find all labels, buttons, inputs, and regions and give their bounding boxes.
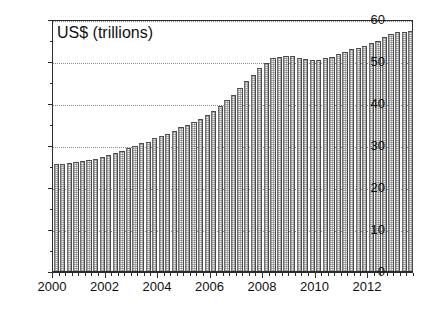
bar — [251, 75, 256, 271]
x-tick — [301, 273, 302, 276]
x-tick — [229, 273, 230, 276]
bar — [93, 159, 98, 271]
bar — [303, 59, 308, 271]
x-tick — [85, 273, 86, 276]
bar — [290, 56, 295, 271]
bar — [159, 136, 164, 271]
x-tick — [150, 273, 151, 276]
y-tick — [50, 41, 53, 42]
x-tick — [406, 273, 407, 276]
bar — [323, 58, 328, 271]
bar — [126, 148, 131, 271]
chart-screenshot: US$ (trillions) 0102030405060 2000200220… — [0, 0, 441, 314]
x-tick — [387, 273, 388, 276]
y-axis — [52, 20, 53, 272]
x-axis-tick-label: 2008 — [240, 280, 284, 294]
y-axis-tick-label: 10 — [359, 223, 385, 236]
y-tick — [48, 20, 53, 21]
x-tick — [341, 273, 342, 276]
bar — [152, 138, 157, 271]
x-axis-tick-label: 2012 — [345, 280, 389, 294]
bar — [54, 164, 59, 271]
bar — [67, 163, 72, 271]
bar — [165, 134, 170, 271]
bar — [218, 106, 223, 271]
bar — [310, 60, 315, 271]
y-axis-tick-label: 50 — [359, 55, 385, 68]
bar — [283, 56, 288, 271]
x-tick — [360, 273, 361, 276]
y-axis-tick-label: 60 — [359, 13, 385, 26]
x-tick — [242, 273, 243, 276]
bar — [139, 143, 144, 271]
bar — [73, 162, 78, 271]
x-tick — [249, 273, 250, 276]
y-tick — [50, 209, 53, 210]
x-tick — [216, 273, 217, 276]
y-axis-tick-label: 40 — [359, 97, 385, 110]
x-tick — [131, 273, 132, 276]
x-tick — [111, 273, 112, 276]
y-axis-tick-label: 20 — [359, 181, 385, 194]
bar — [231, 95, 236, 271]
x-tick — [72, 273, 73, 276]
bar — [237, 88, 242, 271]
x-tick — [354, 273, 355, 276]
y-tick — [48, 104, 53, 105]
x-tick — [236, 273, 237, 276]
y-tick — [48, 62, 53, 63]
x-tick — [137, 273, 138, 276]
y-tick — [48, 230, 53, 231]
bar — [264, 63, 269, 271]
bar — [224, 100, 229, 271]
x-tick — [334, 273, 335, 276]
x-tick — [177, 273, 178, 276]
x-tick — [196, 273, 197, 276]
x-tick — [183, 273, 184, 276]
x-tick — [118, 273, 119, 276]
y-tick — [50, 83, 53, 84]
x-tick — [157, 273, 158, 278]
bar — [388, 34, 393, 271]
bar — [329, 57, 334, 271]
x-tick — [170, 273, 171, 276]
x-tick — [210, 273, 211, 278]
bar — [211, 111, 216, 271]
bar — [113, 153, 118, 271]
bar — [395, 32, 400, 271]
bar — [185, 125, 190, 271]
x-tick — [374, 273, 375, 276]
bar — [402, 32, 407, 271]
y-tick — [50, 167, 53, 168]
x-tick — [124, 273, 125, 276]
bar — [336, 54, 341, 271]
bar — [316, 60, 321, 271]
bar — [349, 49, 354, 271]
x-tick — [282, 273, 283, 276]
x-tick — [59, 273, 60, 276]
x-tick — [144, 273, 145, 276]
bar — [198, 119, 203, 271]
x-tick — [203, 273, 204, 276]
x-tick — [262, 273, 263, 278]
bar — [86, 160, 91, 271]
bar — [277, 57, 282, 271]
y-axis-tick-label: 30 — [359, 139, 385, 152]
x-axis-tick-label: 2006 — [188, 280, 232, 294]
x-tick — [393, 273, 394, 276]
bar — [205, 115, 210, 271]
x-tick — [400, 273, 401, 276]
x-tick — [269, 273, 270, 276]
x-tick — [315, 273, 316, 278]
y-tick — [50, 251, 53, 252]
x-axis — [52, 272, 413, 273]
x-tick — [275, 273, 276, 276]
bar — [356, 48, 361, 271]
x-axis-tick-label: 2000 — [30, 280, 74, 294]
x-tick — [367, 273, 368, 278]
x-tick — [190, 273, 191, 276]
bar — [244, 81, 249, 271]
bar — [191, 122, 196, 271]
bar — [60, 164, 65, 271]
x-tick — [223, 273, 224, 276]
